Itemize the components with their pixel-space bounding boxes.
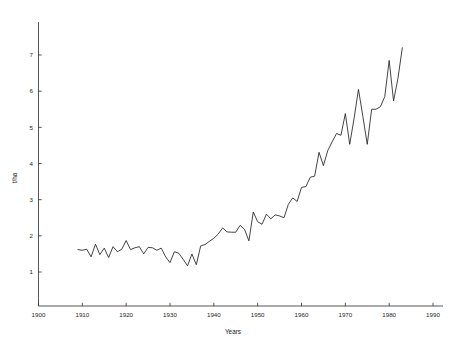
x-tick-label: 1900 [32,311,46,318]
y-tick-label: 4 [30,160,34,167]
y-tick-label: 6 [30,87,34,94]
y-tick-label: 7 [30,51,34,58]
x-tick-label: 1920 [119,311,133,318]
x-tick-label: 1950 [251,311,265,318]
chart-container: 1900191019201930194019501960197019801990… [0,0,466,343]
axes-group [39,22,444,306]
x-tick-label: 1940 [207,311,221,318]
series-line-yield [78,48,402,266]
x-tick-label: 1960 [295,311,309,318]
x-tick-label: 1990 [426,311,440,318]
y-tick-label: 5 [30,124,34,131]
x-axis-title: Years [225,328,241,335]
line-chart: 1900191019201930194019501960197019801990… [0,0,466,343]
y-tick-label: 1 [30,268,34,275]
y-tick-label: 2 [30,232,34,239]
x-tick-label: 1970 [338,311,352,318]
x-tick-label: 1930 [163,311,177,318]
y-axis-title: t/ha [11,172,18,183]
tick-labels-group: 1900191019201930194019501960197019801990… [30,51,441,317]
x-tick-label: 1910 [75,311,89,318]
tick-marks-group [39,55,434,306]
y-tick-label: 3 [30,196,34,203]
x-tick-label: 1980 [382,311,396,318]
